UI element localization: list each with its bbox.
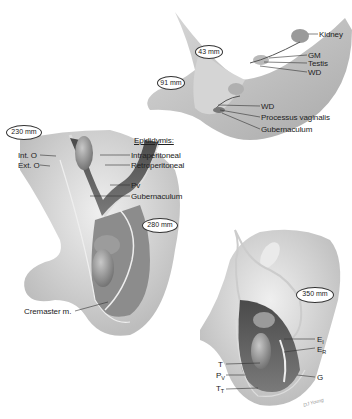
- label-testis: Testis: [308, 59, 328, 68]
- label-int-o: Int. O: [18, 151, 37, 160]
- testicular-descent-diagram: 43 mm 91 mm 230 mm 280 mm 350 mm Kidney …: [0, 0, 352, 419]
- label-t: T: [218, 360, 223, 369]
- label-processus-vaginalis: Processus vaginalis: [261, 113, 330, 122]
- label-gubernaculum-top: Gubernaculum: [261, 125, 312, 134]
- label-g: G: [317, 373, 323, 382]
- stage-badge-43mm: 43 mm: [195, 45, 223, 59]
- label-pv-left: Pv: [131, 181, 140, 190]
- label-ext-o: Ext. O: [18, 161, 40, 170]
- stage-badge-350mm: 350 mm: [296, 287, 334, 303]
- label-wd-91: WD: [261, 102, 274, 111]
- stage-badge-280mm: 280 mm: [142, 218, 178, 233]
- stage-badge-91mm: 91 mm: [157, 76, 185, 90]
- label-intraperitoneal: Intraperitoneal: [131, 151, 181, 160]
- label-e-retroperitoneal: ER: [317, 345, 326, 357]
- label-cremaster: Cremaster m.: [24, 307, 71, 316]
- label-tt: TT: [216, 384, 224, 396]
- label-epididymis: Epididymis:: [134, 136, 174, 145]
- label-wd-top: WD: [308, 68, 321, 77]
- illustration: [0, 0, 352, 419]
- label-pv-right: PV: [216, 371, 225, 383]
- label-retroperitoneal: Retroperitoneal: [131, 161, 184, 170]
- label-gubernaculum-left: Gubernaculum: [131, 192, 182, 201]
- label-kidney: Kidney: [319, 30, 343, 39]
- stage-badge-230mm: 230 mm: [6, 125, 42, 140]
